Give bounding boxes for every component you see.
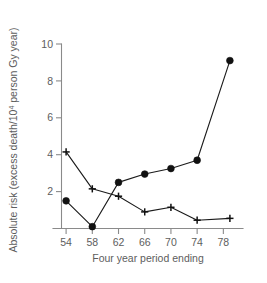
y-axis-title-main: Absolute risk (excess death/10: [7, 109, 19, 252]
y-axis-title-tail: person Gy year): [7, 27, 19, 105]
y-axis: 246810: [41, 38, 61, 228]
y-tick-label-6: 6: [47, 111, 53, 123]
y-tick-label-4: 4: [47, 148, 53, 160]
y-tick-label-8: 8: [47, 75, 53, 87]
x-tick-group: 54586266707478: [60, 229, 229, 249]
y-tick-label-2: 2: [47, 185, 53, 197]
series-line-filled-circle-series: [66, 61, 230, 227]
x-axis: 54586266707478: [53, 229, 243, 249]
x-tick-label-54: 54: [60, 236, 72, 248]
x-tick-label-74: 74: [191, 236, 203, 248]
series-filled-circle-series: [63, 57, 234, 230]
x-tick-label-66: 66: [139, 236, 151, 248]
x-tick-label-58: 58: [86, 236, 98, 248]
y-tick-group: 246810: [41, 38, 61, 198]
data-point-filled-circle-series-62: [115, 179, 122, 186]
chart-figure: 246810 54586266707478 Four year period e…: [0, 0, 267, 283]
x-tick-label-62: 62: [113, 236, 125, 248]
y-axis-title: Absolute risk (excess death/104 person G…: [7, 27, 19, 252]
series-line-plus-series: [66, 152, 230, 220]
data-point-filled-circle-series-70: [168, 165, 175, 172]
x-tick-label-70: 70: [165, 236, 177, 248]
data-point-filled-circle-series-74: [194, 157, 201, 164]
data-point-filled-circle-series-79: [226, 57, 233, 64]
data-point-filled-circle-series-54: [63, 197, 70, 204]
series-plus-series: [63, 148, 234, 223]
line-chart: 246810 54586266707478 Four year period e…: [0, 0, 267, 283]
y-tick-label-10: 10: [41, 38, 53, 50]
x-tick-label-78: 78: [218, 236, 230, 248]
series-layer: [63, 57, 234, 230]
data-point-filled-circle-series-66: [141, 171, 148, 178]
x-axis-title: Four year period ending: [92, 252, 204, 264]
data-point-filled-circle-series-58: [89, 223, 96, 230]
